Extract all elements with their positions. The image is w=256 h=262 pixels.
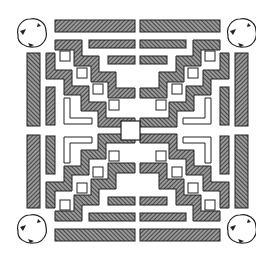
parterre-plan	[0, 0, 256, 262]
tree-icon-bottom-right	[228, 215, 256, 244]
tree-icon-top-left	[18, 19, 47, 48]
tree-icon-top-right	[228, 19, 256, 48]
center-square	[121, 121, 140, 140]
tree-icon-bottom-left	[18, 215, 47, 244]
